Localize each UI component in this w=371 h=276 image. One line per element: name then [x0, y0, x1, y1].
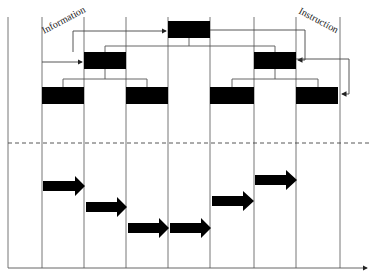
- box-level-3-c: [210, 87, 254, 104]
- flow-arrows: [43, 170, 297, 238]
- block-arrow-5: [212, 191, 254, 211]
- box-level-2-right: [254, 52, 296, 69]
- instruction-label: Instruction: [297, 5, 340, 35]
- block-arrow-3: [128, 218, 169, 238]
- box-level-2-left: [84, 52, 126, 69]
- block-arrow-4: [170, 218, 211, 238]
- boxes: [42, 21, 338, 104]
- block-arrow-6: [255, 170, 297, 190]
- box-level-3-b: [126, 87, 168, 104]
- hierarchy-diagram: Information Instruction: [0, 0, 371, 276]
- diagram-svg: Information Instruction: [0, 0, 371, 276]
- block-arrow-1: [43, 176, 85, 196]
- box-level-3-a: [42, 87, 84, 104]
- box-level-3-d: [296, 87, 338, 104]
- box-level-1: [168, 21, 210, 38]
- block-arrow-2: [86, 197, 127, 217]
